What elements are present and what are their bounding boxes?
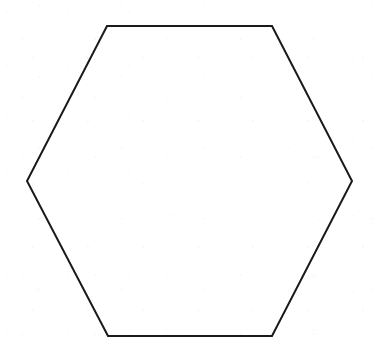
hexagon-figure: [0, 0, 375, 353]
drawing-canvas: [0, 0, 375, 353]
hexagon-outline: [27, 26, 352, 336]
